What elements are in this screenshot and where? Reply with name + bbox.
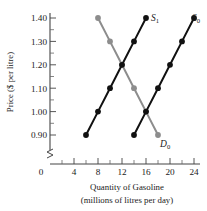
- data-point: [167, 62, 173, 68]
- y-tick-label: 1.10: [31, 84, 47, 94]
- x-tick-labels: 0 4 8 12 16 20 24: [39, 167, 199, 177]
- supply-new-curve-line: [86, 18, 146, 135]
- x-tick-label: 16: [141, 167, 151, 177]
- data-point: [119, 62, 125, 68]
- y-axis-break-icon: [47, 149, 53, 158]
- y-tick-label: 1.40: [31, 13, 47, 23]
- x-tick-label: 8: [96, 167, 101, 177]
- data-point: [107, 85, 113, 91]
- data-point: [155, 85, 161, 91]
- data-point: [107, 39, 113, 45]
- axes: [47, 13, 200, 164]
- y-tick-label: 1.30: [31, 37, 47, 47]
- data-point: [155, 132, 161, 138]
- x-axis-title-line2: (millions of litres per day): [81, 195, 173, 205]
- x-axis-title-line1: Quantity of Gasoline: [90, 182, 164, 192]
- x-tick-label: 12: [117, 167, 127, 177]
- supply-original-curve-line: [134, 18, 194, 135]
- y-tick-label: 1.20: [31, 60, 47, 70]
- x-tick-label: 4: [72, 167, 77, 177]
- y-ticks: [50, 18, 56, 135]
- curve-label-s0: S0: [192, 13, 201, 24]
- x-tick-label: 20: [165, 167, 175, 177]
- chart-svg: 1.40 1.30 1.20 1.10 1.00 0.90 0 4 8: [0, 0, 207, 211]
- curve-label-s1: S1: [151, 13, 159, 24]
- data-point: [131, 39, 137, 45]
- data-point: [131, 85, 137, 91]
- y-tick-labels: 1.40 1.30 1.20 1.10 1.00 0.90: [31, 13, 47, 140]
- data-point: [95, 15, 101, 21]
- x-ticks: [62, 158, 194, 164]
- series-D0: [95, 15, 161, 138]
- series-S1: [83, 15, 149, 138]
- y-tick-label: 0.90: [31, 130, 47, 140]
- x-tick-label: 0: [39, 167, 44, 177]
- data-point: [131, 132, 137, 138]
- y-axis-title: Price ($ per litre): [5, 52, 15, 112]
- gasoline-supply-demand-chart: 1.40 1.30 1.20 1.10 1.00 0.90 0 4 8: [0, 0, 207, 211]
- data-point: [143, 109, 149, 115]
- data-point: [179, 39, 185, 45]
- x-tick-label: 24: [189, 167, 199, 177]
- data-point: [83, 132, 89, 138]
- curve-labels: S1 S0 D0: [151, 13, 201, 150]
- curve-label-d0: D0: [159, 139, 171, 150]
- y-tick-label: 1.00: [31, 107, 47, 117]
- demand-curve-line: [98, 18, 158, 135]
- data-point: [143, 15, 149, 21]
- data-point: [95, 109, 101, 115]
- series-S0: [131, 15, 197, 138]
